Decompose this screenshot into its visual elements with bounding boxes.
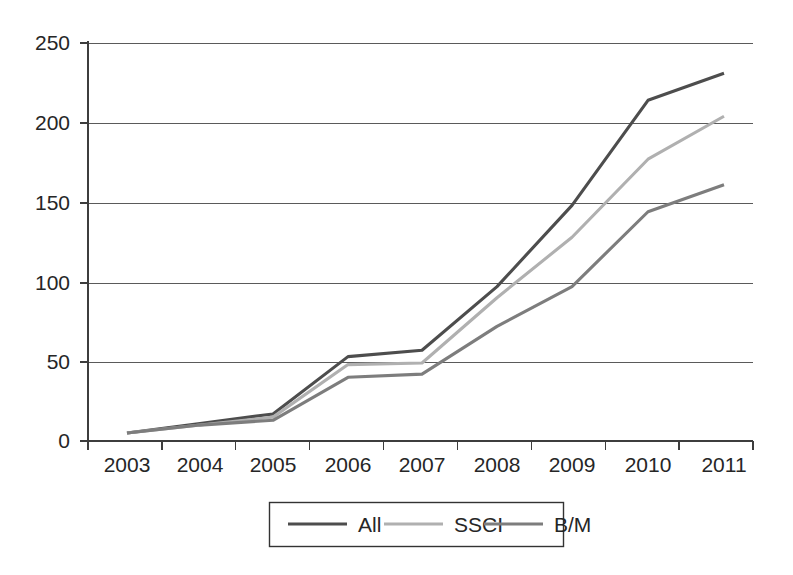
x-tick-label-2006: 2006 (325, 453, 372, 476)
chart-legend: AllSSCIB/M (270, 503, 592, 547)
plot-area-background (88, 43, 753, 441)
x-tick-label-2003: 2003 (104, 453, 151, 476)
x-axis-tick-labels: 200320042005200620072008200920102011 (104, 453, 747, 476)
y-tick-label-200: 200 (35, 111, 70, 134)
x-tick-label-2005: 2005 (250, 453, 297, 476)
x-tick-label-2007: 2007 (399, 453, 446, 476)
y-tick-label-0: 0 (58, 429, 70, 452)
x-tick-label-2008: 2008 (474, 453, 521, 476)
y-axis-tick-labels: 250200150100500 (35, 31, 70, 452)
legend-label-b-m: B/M (554, 513, 591, 536)
x-tick-label-2010: 2010 (625, 453, 672, 476)
y-tick-label-250: 250 (35, 31, 70, 54)
x-tick-label-2009: 2009 (549, 453, 596, 476)
y-axis-ticks (80, 43, 88, 441)
y-tick-label-50: 50 (47, 350, 70, 373)
chart-canvas: 250200150100500 200320042005200620072008… (0, 0, 793, 575)
x-tick-label-2011: 2011 (701, 453, 746, 476)
line-chart: 250200150100500 200320042005200620072008… (0, 0, 793, 575)
x-axis-ticks (88, 441, 753, 450)
y-tick-label-150: 150 (35, 191, 70, 214)
y-tick-label-100: 100 (35, 271, 70, 294)
legend-label-all: All (358, 513, 381, 536)
x-tick-label-2004: 2004 (177, 453, 224, 476)
